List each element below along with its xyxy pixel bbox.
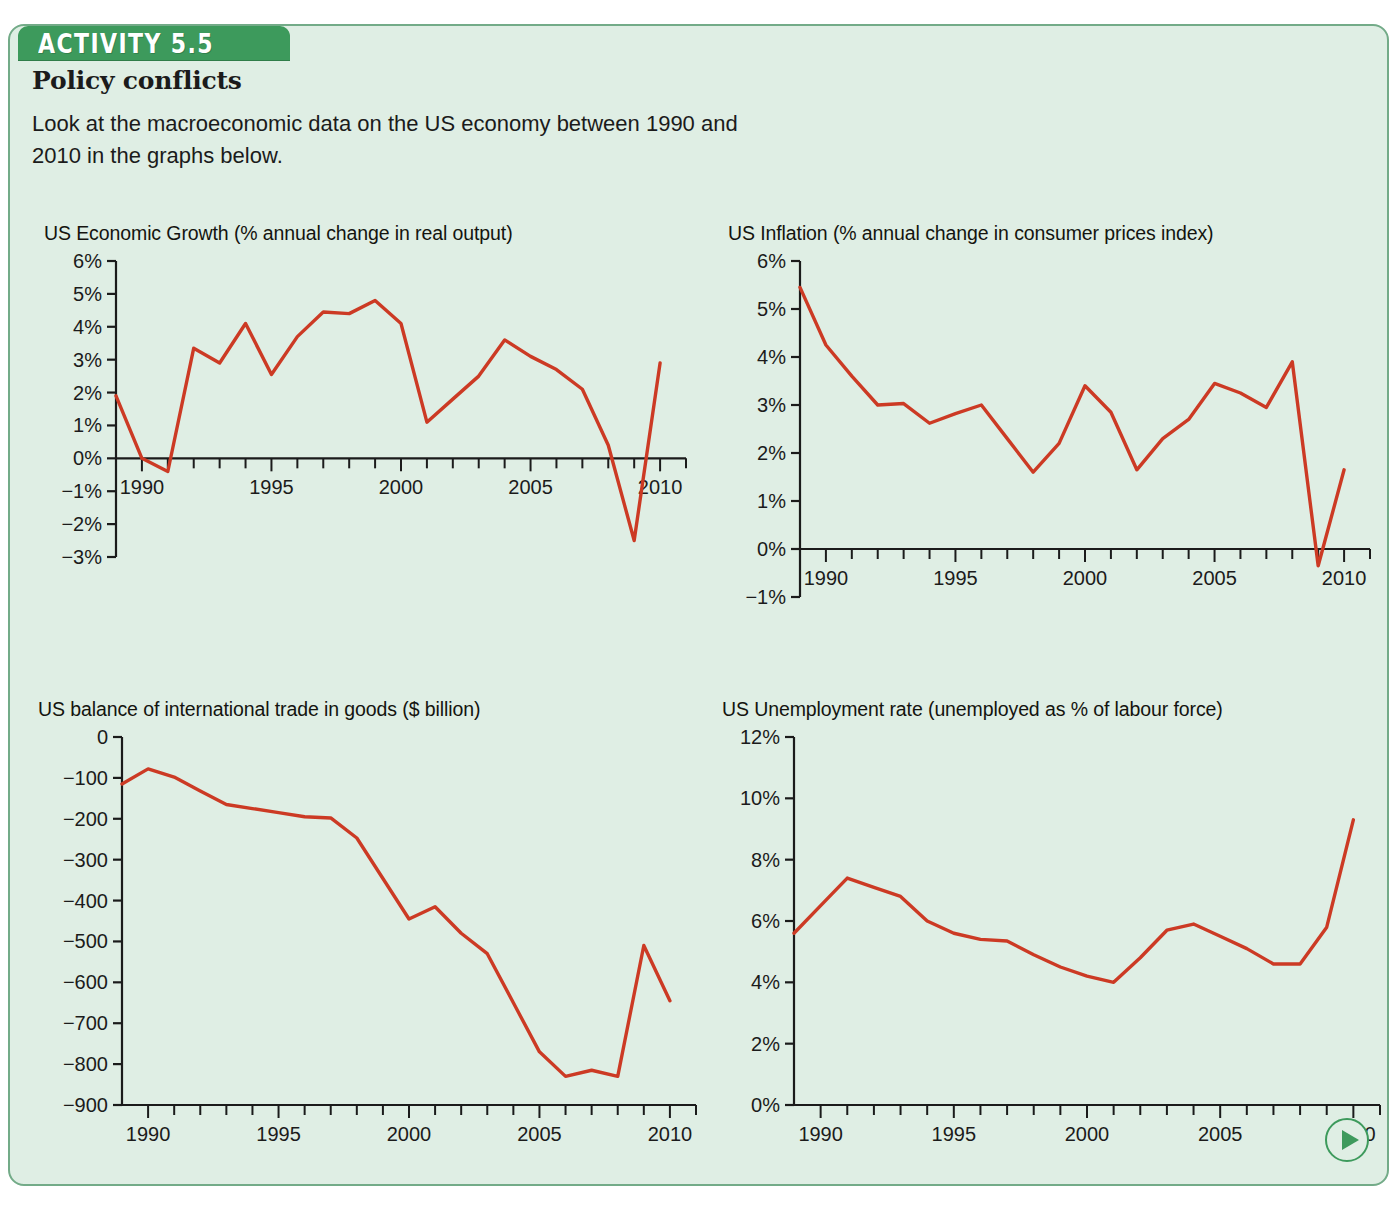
y-tick-label: 8% bbox=[751, 849, 780, 871]
y-tick-label: 4% bbox=[73, 316, 102, 338]
chart-title-trade: US balance of international trade in goo… bbox=[38, 698, 710, 721]
next-page-button[interactable] bbox=[1325, 1118, 1369, 1162]
data-series-line-inflation bbox=[800, 287, 1344, 565]
x-tick-label: 2000 bbox=[387, 1123, 432, 1145]
y-tick-label: 5% bbox=[73, 283, 102, 305]
x-tick-label: 1990 bbox=[126, 1123, 171, 1145]
play-triangle-icon bbox=[1342, 1130, 1359, 1150]
chart-canvas-trade: 0−100−200−300−400−500−600−700−800−900199… bbox=[38, 723, 710, 1157]
y-tick-label: 4% bbox=[751, 971, 780, 993]
y-tick-label: 4% bbox=[757, 346, 786, 368]
x-tick-label: 1995 bbox=[933, 567, 978, 589]
activity-tab-label: ACTIVITY 5.5 bbox=[38, 29, 214, 59]
y-tick-label: −100 bbox=[63, 767, 108, 789]
y-tick-label: 1% bbox=[73, 414, 102, 436]
y-tick-label: −400 bbox=[63, 890, 108, 912]
y-tick-label: −3% bbox=[61, 546, 102, 568]
y-tick-label: 6% bbox=[73, 250, 102, 272]
y-tick-label: −900 bbox=[63, 1094, 108, 1116]
y-tick-label: 6% bbox=[751, 910, 780, 932]
x-tick-label: 1995 bbox=[932, 1123, 977, 1145]
y-tick-label: 5% bbox=[757, 298, 786, 320]
y-tick-label: 1% bbox=[757, 490, 786, 512]
y-tick-label: 2% bbox=[73, 382, 102, 404]
x-tick-label: 2005 bbox=[1192, 567, 1237, 589]
y-tick-label: −1% bbox=[61, 480, 102, 502]
chart-canvas-inflation: 6%5%4%3%2%1%0%−1%19901995200020052010 bbox=[728, 247, 1388, 681]
y-tick-label: 2% bbox=[757, 442, 786, 464]
x-tick-label: 2000 bbox=[1063, 567, 1108, 589]
chart-plot-unemployment: 12%10%8%6%4%2%0%19901995200020052010 bbox=[722, 723, 1394, 1153]
chart-title-growth: US Economic Growth (% annual change in r… bbox=[44, 222, 704, 245]
chart-title-unemployment: US Unemployment rate (unemployed as % of… bbox=[722, 698, 1394, 721]
y-tick-label: 0 bbox=[97, 726, 108, 748]
y-tick-label: 6% bbox=[757, 250, 786, 272]
x-tick-label: 1990 bbox=[798, 1123, 843, 1145]
y-tick-label: 3% bbox=[757, 394, 786, 416]
activity-panel: ACTIVITY 5.5 Policy conflicts Look at th… bbox=[8, 24, 1389, 1186]
data-series-line-unemployment bbox=[794, 820, 1353, 983]
page-title: Policy conflicts bbox=[32, 66, 242, 95]
y-tick-label: −500 bbox=[63, 930, 108, 952]
x-tick-label: 2005 bbox=[1198, 1123, 1243, 1145]
x-tick-label: 2005 bbox=[517, 1123, 562, 1145]
chart-plot-trade: 0−100−200−300−400−500−600−700−800−900199… bbox=[38, 723, 710, 1153]
y-tick-label: 0% bbox=[757, 538, 786, 560]
y-tick-label: 10% bbox=[740, 787, 780, 809]
y-tick-label: 12% bbox=[740, 726, 780, 748]
chart-title-inflation: US Inflation (% annual change in consume… bbox=[728, 222, 1388, 245]
x-tick-label: 1990 bbox=[804, 567, 849, 589]
y-tick-label: 2% bbox=[751, 1033, 780, 1055]
y-tick-label: −700 bbox=[63, 1012, 108, 1034]
x-tick-label: 1995 bbox=[249, 476, 294, 498]
chart-us-inflation: US Inflation (% annual change in consume… bbox=[728, 222, 1388, 681]
y-tick-label: 3% bbox=[73, 349, 102, 371]
activity-instructions: Look at the macroeconomic data on the US… bbox=[32, 108, 792, 172]
chart-plot-inflation: 6%5%4%3%2%1%0%−1%19901995200020052010 bbox=[728, 247, 1388, 677]
y-tick-label: −200 bbox=[63, 808, 108, 830]
x-tick-label: 2010 bbox=[648, 1123, 693, 1145]
chart-us-unemployment: US Unemployment rate (unemployed as % of… bbox=[722, 698, 1394, 1157]
x-tick-label: 2010 bbox=[1322, 567, 1367, 589]
chart-canvas-unemployment: 12%10%8%6%4%2%0%19901995200020052010 bbox=[722, 723, 1394, 1157]
x-tick-label: 2000 bbox=[379, 476, 424, 498]
y-tick-label: −600 bbox=[63, 971, 108, 993]
chart-plot-growth: 6%5%4%3%2%1%0%−1%−2%−3%19901995200020052… bbox=[44, 247, 704, 677]
y-tick-label: 0% bbox=[73, 447, 102, 469]
x-tick-label: 2005 bbox=[508, 476, 553, 498]
y-tick-label: −800 bbox=[63, 1053, 108, 1075]
chart-us-economic-growth: US Economic Growth (% annual change in r… bbox=[44, 222, 704, 681]
y-tick-label: −300 bbox=[63, 849, 108, 871]
chart-us-trade-balance: US balance of international trade in goo… bbox=[38, 698, 710, 1157]
data-series-line-trade bbox=[122, 769, 670, 1076]
y-tick-label: −2% bbox=[61, 513, 102, 535]
x-tick-label: 1995 bbox=[256, 1123, 301, 1145]
x-tick-label: 1990 bbox=[120, 476, 165, 498]
y-tick-label: −1% bbox=[745, 586, 786, 608]
activity-tab: ACTIVITY 5.5 bbox=[18, 26, 290, 60]
y-tick-label: 0% bbox=[751, 1094, 780, 1116]
data-series-line-growth bbox=[116, 300, 660, 540]
x-tick-label: 2000 bbox=[1065, 1123, 1110, 1145]
chart-canvas-growth: 6%5%4%3%2%1%0%−1%−2%−3%19901995200020052… bbox=[44, 247, 704, 681]
